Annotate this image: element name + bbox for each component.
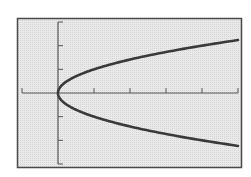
graphing-calculator-screen — [0, 0, 251, 177]
